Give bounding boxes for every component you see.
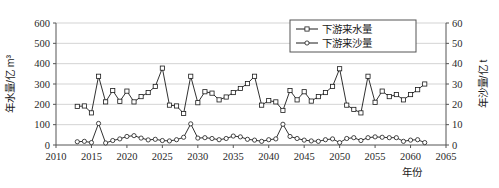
data-point-square: [118, 99, 122, 103]
y-axis-right-title: 年沙量/亿 t: [477, 60, 489, 109]
data-point-square: [153, 84, 157, 88]
x-tick-label: 2025: [152, 151, 173, 162]
x-tick-label: 2035: [223, 151, 244, 162]
data-point-square: [132, 100, 136, 104]
data-point-square: [189, 74, 193, 78]
data-point-square: [210, 91, 214, 95]
y-tick-label-right: 40: [452, 58, 463, 69]
y-tick-label-right: 0: [452, 140, 457, 151]
data-point-circle: [267, 138, 271, 142]
data-point-circle: [89, 140, 93, 144]
data-point-square: [359, 111, 363, 115]
y-tick-label-right: 20: [452, 99, 463, 110]
data-point-square: [330, 84, 334, 88]
data-point-square: [260, 103, 264, 107]
y-tick-label-left: 300: [34, 79, 50, 90]
y-tick-label-right: 30: [452, 79, 463, 90]
data-point-square: [309, 99, 313, 103]
data-point-square: [345, 103, 349, 107]
data-point-square: [182, 111, 186, 115]
data-point-square: [167, 103, 171, 107]
x-tick-label: 2030: [187, 151, 208, 162]
data-point-square: [146, 90, 150, 94]
data-point-circle: [288, 134, 292, 138]
data-point-square: [267, 99, 271, 103]
data-point-square: [252, 74, 256, 78]
data-point-circle: [352, 136, 356, 140]
y-tick-label-left: 200: [34, 99, 50, 110]
data-point-circle: [316, 139, 320, 143]
data-point-square: [125, 89, 129, 93]
data-point-circle: [305, 41, 309, 45]
x-tick-label: 2015: [81, 151, 102, 162]
data-point-circle: [274, 137, 278, 141]
x-tick-label: 2040: [258, 151, 279, 162]
data-point-circle: [231, 134, 235, 138]
data-point-circle: [174, 138, 178, 142]
data-point-circle: [118, 137, 122, 141]
data-point-square: [338, 67, 342, 71]
data-point-circle: [160, 138, 164, 142]
data-point-square: [323, 90, 327, 94]
x-axis-title: 年份: [402, 166, 423, 178]
data-point-square: [281, 108, 285, 112]
data-point-circle: [189, 122, 193, 126]
x-tick-label: 2010: [46, 151, 67, 162]
y-tick-label-left: 100: [34, 119, 50, 130]
data-point-circle: [330, 137, 334, 141]
data-point-square: [401, 98, 405, 102]
data-point-square: [217, 98, 221, 102]
y-tick-label-left: 600: [34, 18, 50, 29]
data-point-square: [224, 95, 228, 99]
data-point-circle: [125, 134, 129, 138]
data-point-circle: [281, 122, 285, 126]
data-point-square: [231, 90, 235, 94]
data-point-square: [305, 27, 309, 31]
data-point-circle: [423, 140, 427, 144]
y-tick-label-left: 0: [45, 140, 50, 151]
chart-legend: 下游来水量下游来沙量: [290, 20, 416, 52]
data-point-square: [196, 101, 200, 105]
data-point-square: [274, 100, 278, 104]
line-chart: 0100200300400500600010203040506020102015…: [0, 0, 499, 188]
data-point-circle: [210, 136, 214, 140]
data-point-square: [373, 100, 377, 104]
data-point-circle: [359, 138, 363, 142]
data-point-circle: [153, 137, 157, 141]
x-tick-label: 2020: [116, 151, 137, 162]
y-tick-label-left: 500: [34, 38, 50, 49]
y-tick-label-left: 400: [34, 58, 50, 69]
data-point-square: [82, 104, 86, 108]
data-point-circle: [401, 139, 405, 143]
data-point-circle: [373, 135, 377, 139]
x-tick-label: 2055: [365, 151, 386, 162]
data-point-square: [174, 104, 178, 108]
data-point-square: [160, 66, 164, 70]
data-point-square: [111, 88, 115, 92]
data-point-square: [96, 74, 100, 78]
data-point-circle: [245, 137, 249, 141]
data-point-square: [295, 98, 299, 102]
y-axis-left-title: 年水量/亿 m³: [4, 54, 16, 113]
data-point-square: [380, 89, 384, 93]
data-point-circle: [309, 139, 313, 143]
data-point-circle: [132, 134, 136, 138]
data-point-circle: [380, 135, 384, 139]
data-point-circle: [366, 136, 370, 140]
data-point-circle: [167, 139, 171, 143]
data-point-circle: [394, 136, 398, 140]
data-point-square: [352, 107, 356, 111]
legend-label-1: 下游来水量: [322, 23, 373, 35]
data-point-circle: [387, 136, 391, 140]
data-point-square: [302, 90, 306, 94]
data-point-square: [104, 100, 108, 104]
data-point-square: [238, 86, 242, 90]
data-point-circle: [338, 140, 342, 144]
chart-background: [0, 0, 499, 188]
data-point-circle: [345, 136, 349, 140]
y-tick-label-right: 10: [452, 119, 463, 130]
data-point-circle: [182, 135, 186, 139]
data-point-square: [75, 104, 79, 108]
data-point-square: [316, 95, 320, 99]
data-point-square: [423, 82, 427, 86]
